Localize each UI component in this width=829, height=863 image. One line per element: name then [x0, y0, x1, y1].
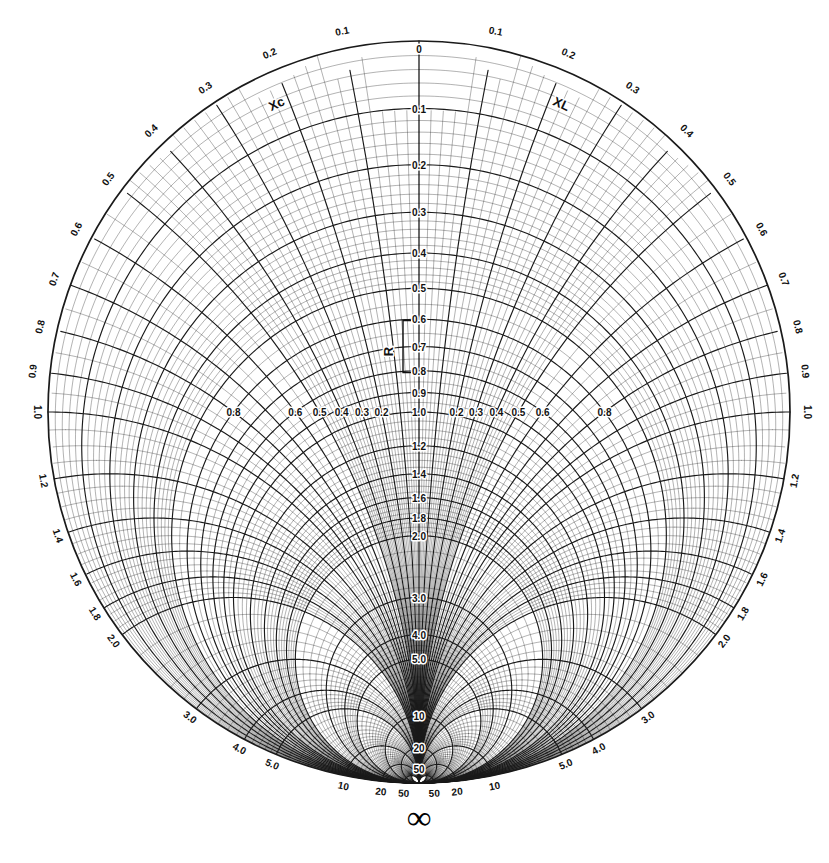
grid-label: 1.8	[412, 513, 426, 524]
grid-label: 0.5	[511, 407, 525, 418]
grid-label-group: RR	[381, 346, 396, 356]
grid-label-group: 0.60.6	[288, 407, 302, 418]
grid-label: 50	[413, 764, 425, 775]
grid-label: 0.2	[450, 407, 464, 418]
smith-chart-svg: 000.10.10.20.20.30.30.40.40.50.50.60.60.…	[0, 0, 829, 863]
grid-label-group: 0.20.2	[450, 407, 464, 418]
grid-label-group: 2020	[375, 786, 388, 798]
grid-label: R	[381, 346, 396, 356]
grid-label-group: 0.60.6	[536, 407, 550, 418]
grid-label-group: 0.10.1	[412, 104, 426, 115]
grid-label: 0.9	[26, 363, 38, 378]
grid-label: 0.6	[412, 314, 426, 325]
grid-label-group: 0.40.4	[489, 407, 503, 418]
grid-label-group: 0.50.5	[313, 407, 327, 418]
grid-label-group: 1.61.6	[412, 493, 426, 504]
grid-label-group: 0.60.6	[412, 314, 426, 325]
grid-label-group: 0.40.4	[412, 248, 426, 259]
grid-label: 50	[398, 787, 410, 798]
grid-label: 0.8	[598, 407, 612, 418]
grid-label-group: 5050	[398, 787, 410, 798]
grid-label-group: 0.70.7	[412, 342, 426, 353]
grid-label: 0.6	[288, 407, 302, 418]
grid-label-group: 0.90.9	[26, 363, 38, 378]
grid-label-group: 0.20.2	[412, 160, 426, 171]
grid-label: 0.3	[412, 207, 426, 218]
grid-label: 1.0	[412, 407, 426, 418]
grid-label-group: 5.05.0	[412, 654, 426, 665]
grid-label: 5.0	[412, 654, 426, 665]
grid-label-group: 5050	[413, 764, 425, 775]
grid-label-group: 0.30.3	[355, 407, 369, 418]
grid-label-group: 0.50.5	[412, 283, 426, 294]
grid-label-group: 0.80.8	[598, 407, 612, 418]
grid-label: 0.3	[355, 407, 369, 418]
grid-label: 0.6	[536, 407, 550, 418]
grid-label: 0.8	[412, 366, 426, 377]
grid-label: 0.4	[412, 248, 426, 259]
grid-label: 4.0	[412, 630, 426, 641]
grid-label: 2.0	[412, 531, 426, 542]
grid-label: 0.5	[412, 283, 426, 294]
grid-label-group: 1010	[413, 711, 425, 722]
grid-label: 1.4	[412, 469, 426, 480]
grid-label-group: 4.04.0	[412, 630, 426, 641]
grid-label-group: 3.03.0	[412, 593, 426, 604]
grid-label-group: 1.01.0	[802, 405, 813, 419]
grid-label: 0.4	[489, 407, 503, 418]
grid-label-group: 0.50.5	[511, 407, 525, 418]
grid-label-group: 0.30.3	[469, 407, 483, 418]
grid-label: 1.2	[412, 441, 426, 452]
grid-label: 0	[416, 44, 422, 55]
grid-label-group: 5050	[428, 787, 440, 798]
grid-label-group: 0.80.8	[412, 366, 426, 377]
grid-label: 20	[451, 786, 464, 798]
grid-label-group: 1.01.0	[412, 407, 426, 418]
grid-label-group: 1.41.4	[412, 469, 426, 480]
grid-label: 20	[413, 743, 425, 754]
grid-label: 0.4	[335, 407, 349, 418]
grid-label: 1.0	[802, 405, 813, 419]
smith-chart-figure: 000.10.10.20.20.30.30.40.40.50.50.60.60.…	[0, 0, 829, 863]
grid-label: 0.9	[799, 364, 811, 379]
grid-label-group: 2020	[451, 786, 464, 798]
grid-label-group: 00	[416, 44, 422, 55]
grid-label-group: 0.90.9	[412, 388, 426, 399]
grid-label: 10	[413, 711, 425, 722]
grid-label: 1.6	[412, 493, 426, 504]
grid-label-group: 0.90.9	[799, 364, 811, 379]
grid-label-group: 1.81.8	[412, 513, 426, 524]
grid-label: 0.8	[227, 407, 241, 418]
grid-label-group: 0.80.8	[227, 407, 241, 418]
grid-label-group: 0.40.4	[335, 407, 349, 418]
grid-label: 0.2	[412, 160, 426, 171]
grid-label: 3.0	[412, 593, 426, 604]
infinity-symbol: ∞	[395, 801, 443, 835]
grid-label: 0.7	[412, 342, 426, 353]
grid-label: 0.3	[469, 407, 483, 418]
grid-label-group: 1.01.0	[32, 405, 43, 419]
grid-label: 20	[375, 786, 388, 798]
grid-label: 0.5	[313, 407, 327, 418]
grid-label-group: 0.30.3	[412, 207, 426, 218]
grid-label: 1.0	[32, 405, 43, 419]
grid-label-group: 0.20.2	[375, 407, 389, 418]
grid-label: 50	[428, 787, 440, 798]
grid-label-group: 2020	[413, 743, 425, 754]
grid-label-group: 1.21.2	[412, 441, 426, 452]
grid-label: 0.1	[412, 104, 426, 115]
grid-label-group: 2.02.0	[412, 531, 426, 542]
grid-label: 0.2	[375, 407, 389, 418]
grid-label: 0.9	[412, 388, 426, 399]
